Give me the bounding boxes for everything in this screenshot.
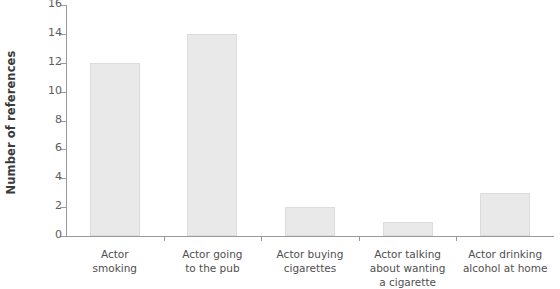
y-tick-label: 16	[48, 0, 62, 10]
x-tick-mark	[261, 236, 262, 241]
y-tick-label: 8	[55, 113, 62, 126]
x-axis-line	[66, 236, 554, 237]
x-axis-label: Actor buying cigarettes	[261, 247, 359, 275]
y-tick-label: 10	[48, 84, 62, 97]
x-axis-label: Actor smoking	[66, 247, 164, 275]
bar	[383, 222, 433, 236]
y-tick-label: 14	[48, 26, 62, 39]
x-axis-label: Actor talking about wanting a cigarette	[359, 247, 457, 289]
y-axis-title: Number of references	[2, 0, 20, 245]
y-tick-label: 4	[55, 170, 62, 183]
y-tick-label: 12	[48, 55, 62, 68]
bar	[90, 63, 140, 236]
x-axis-label: Actor going to the pub	[164, 247, 262, 275]
x-tick-mark	[456, 236, 457, 241]
y-tick-label: 6	[55, 141, 62, 154]
y-tick-label: 0	[55, 228, 62, 241]
bar	[187, 34, 237, 236]
y-axis-line	[66, 5, 67, 236]
y-tick-label: 2	[55, 199, 62, 212]
x-axis-label: Actor drinking alcohol at home	[456, 247, 554, 275]
bar	[285, 207, 335, 236]
bar	[480, 193, 530, 236]
x-tick-mark	[359, 236, 360, 241]
plot-area: 0246810121416 Actor smokingActor going t…	[66, 5, 554, 236]
x-tick-mark	[164, 236, 165, 241]
